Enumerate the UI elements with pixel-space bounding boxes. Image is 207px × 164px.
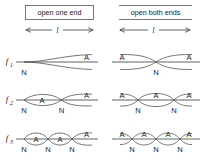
node-label: N xyxy=(135,106,140,115)
node-label: N xyxy=(177,145,182,154)
figure-root: open one end open both ends l l f 1 f 2 xyxy=(0,0,207,164)
wave-lower xyxy=(24,62,92,70)
header-open-one-end: open one end xyxy=(26,6,94,20)
pattern-open-one-end-f1: N A xyxy=(16,53,98,77)
antinode-label: A xyxy=(153,91,159,100)
row-label-f3-subscript: 3 xyxy=(9,139,13,145)
node-label: N xyxy=(45,145,50,154)
row-label-f1-subscript: 1 xyxy=(10,62,13,68)
node-label: N xyxy=(171,106,176,115)
node-label: N xyxy=(21,106,26,115)
pattern-open-one-end-f2: N A N A xyxy=(16,91,98,115)
row-label-f1: f 1 xyxy=(6,56,13,68)
row-label-f2: f 2 xyxy=(6,94,13,106)
node-label: N xyxy=(153,145,158,154)
pattern-open-both-ends-f3: A N A N A N A xyxy=(112,130,200,154)
antinode-label: A xyxy=(186,130,192,139)
wave-upper xyxy=(24,55,92,63)
header-label-right: open both ends xyxy=(131,8,181,17)
node-label: N xyxy=(69,145,74,154)
antinode-label: A xyxy=(119,130,125,139)
header-label-left: open one end xyxy=(38,8,82,17)
antinode-label: A xyxy=(84,91,90,100)
row-label-f3: f 3 xyxy=(6,133,13,145)
antinode-label: A xyxy=(119,91,125,100)
pattern-open-both-ends-f1: A A N xyxy=(112,53,200,77)
node-label: N xyxy=(59,106,64,115)
node-label: N xyxy=(21,68,26,77)
node-label: N xyxy=(21,145,26,154)
pattern-open-both-ends-f2: A N A N A xyxy=(112,91,200,115)
standing-wave-diagram: open one end open both ends l l f 1 f 2 xyxy=(0,0,207,164)
length-label-right: l xyxy=(152,26,154,35)
header-open-both-ends: open both ends xyxy=(119,6,192,20)
length-label-left: l xyxy=(56,26,58,35)
node-label: N xyxy=(129,145,134,154)
antinode-label: A xyxy=(141,130,147,139)
length-indicator-left: l xyxy=(26,26,93,35)
antinode-label: A xyxy=(165,130,171,139)
length-indicator-right: l xyxy=(120,26,190,35)
row-label-f2-subscript: 2 xyxy=(10,100,13,106)
antinode-label: A xyxy=(186,91,192,100)
antinode-label: A xyxy=(84,130,90,139)
node-label: N xyxy=(153,68,158,77)
pattern-open-one-end-f3: N A N A N A xyxy=(16,130,98,154)
